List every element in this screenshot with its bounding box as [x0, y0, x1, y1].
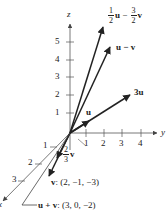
label-v: v: (2, −1, −3) — [51, 178, 99, 187]
y-tick-3: 3 — [119, 139, 124, 148]
z-tick-3: 3 — [55, 72, 60, 81]
y-axis-label: y — [161, 128, 165, 137]
label-u: u — [86, 108, 91, 117]
z-tick-2: 2 — [55, 90, 60, 99]
z-tick-1: 1 — [55, 108, 60, 117]
x-axis-label: x — [0, 200, 2, 209]
vector-diagram — [0, 0, 168, 222]
y-tick-2: 2 — [101, 139, 106, 148]
y-tick-1: 1 — [84, 139, 89, 148]
x-tick-3: 3 — [12, 175, 17, 184]
x-tick-1: 1 — [43, 141, 48, 150]
z-axis-label: z — [67, 10, 71, 19]
z-tick-4: 4 — [55, 55, 60, 64]
y-axis — [70, 129, 157, 137]
label-3u: 3u — [134, 88, 144, 97]
x-tick-2: 2 — [28, 158, 33, 167]
label-two-thirds-v: 23v — [62, 145, 75, 164]
label-u-plus-v: u + v: (3, 0, −2) — [38, 201, 95, 210]
y-tick-4: 4 — [138, 139, 143, 148]
z-tick-5: 5 — [55, 37, 60, 46]
label-u-minus-v: u − v — [116, 43, 135, 52]
vector-half-u-minus-three-halves-v — [70, 27, 103, 133]
label-half-u-minus-three-halves-v: 12u − 32v — [107, 6, 142, 25]
